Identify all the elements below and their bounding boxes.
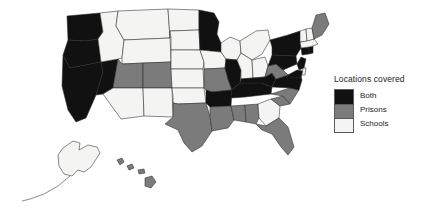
- legend-swatch-both[interactable]: [335, 90, 353, 104]
- state-LA[interactable]: [210, 106, 234, 131]
- legend-label-schools: Schools: [360, 117, 388, 131]
- legend-label-both: Both: [360, 89, 388, 103]
- state-WA[interactable]: [67, 13, 103, 41]
- state-MN[interactable]: [199, 10, 221, 52]
- state-AK[interactable]: [58, 141, 100, 176]
- legend-title: Locations covered: [334, 74, 424, 85]
- legend-label-prisons: Prisons: [360, 103, 388, 117]
- state-WY[interactable]: [122, 38, 171, 64]
- map-states: [22, 9, 329, 201]
- state-SD[interactable]: [170, 30, 200, 50]
- legend-swatch-schools[interactable]: [335, 118, 353, 132]
- state-HI-kauai[interactable]: [117, 158, 124, 165]
- state-MT[interactable]: [116, 9, 170, 40]
- legend-label-column: Both Prisons Schools: [360, 89, 388, 131]
- state-AK-aleutians: [22, 176, 70, 201]
- state-AR[interactable]: [206, 90, 232, 107]
- legend-body: Both Prisons Schools: [334, 89, 424, 133]
- state-HI-big[interactable]: [145, 176, 156, 188]
- legend-swatch-prisons[interactable]: [335, 104, 353, 118]
- state-FL[interactable]: [256, 118, 294, 155]
- state-RI[interactable]: [309, 46, 313, 54]
- state-MD[interactable]: [288, 70, 303, 78]
- state-ME[interactable]: [312, 13, 329, 39]
- state-OK[interactable]: [172, 88, 206, 104]
- state-WI[interactable]: [221, 37, 241, 60]
- map-legend: Locations covered Both Prisons Schools: [334, 74, 424, 133]
- state-NM[interactable]: [143, 88, 173, 117]
- state-CO[interactable]: [143, 62, 172, 88]
- state-TN[interactable]: [231, 83, 272, 98]
- state-NE[interactable]: [171, 50, 204, 69]
- state-DE[interactable]: [302, 68, 306, 75]
- legend-swatch-column: [334, 89, 354, 133]
- choropleth-figure: Locations covered Both Prisons Schools: [0, 0, 425, 211]
- state-HI-maui[interactable]: [138, 169, 145, 174]
- state-AZ[interactable]: [103, 88, 144, 119]
- state-KS[interactable]: [171, 69, 204, 88]
- state-HI-oahu[interactable]: [127, 164, 134, 170]
- state-AL[interactable]: [245, 104, 259, 124]
- state-CT[interactable]: [301, 47, 309, 55]
